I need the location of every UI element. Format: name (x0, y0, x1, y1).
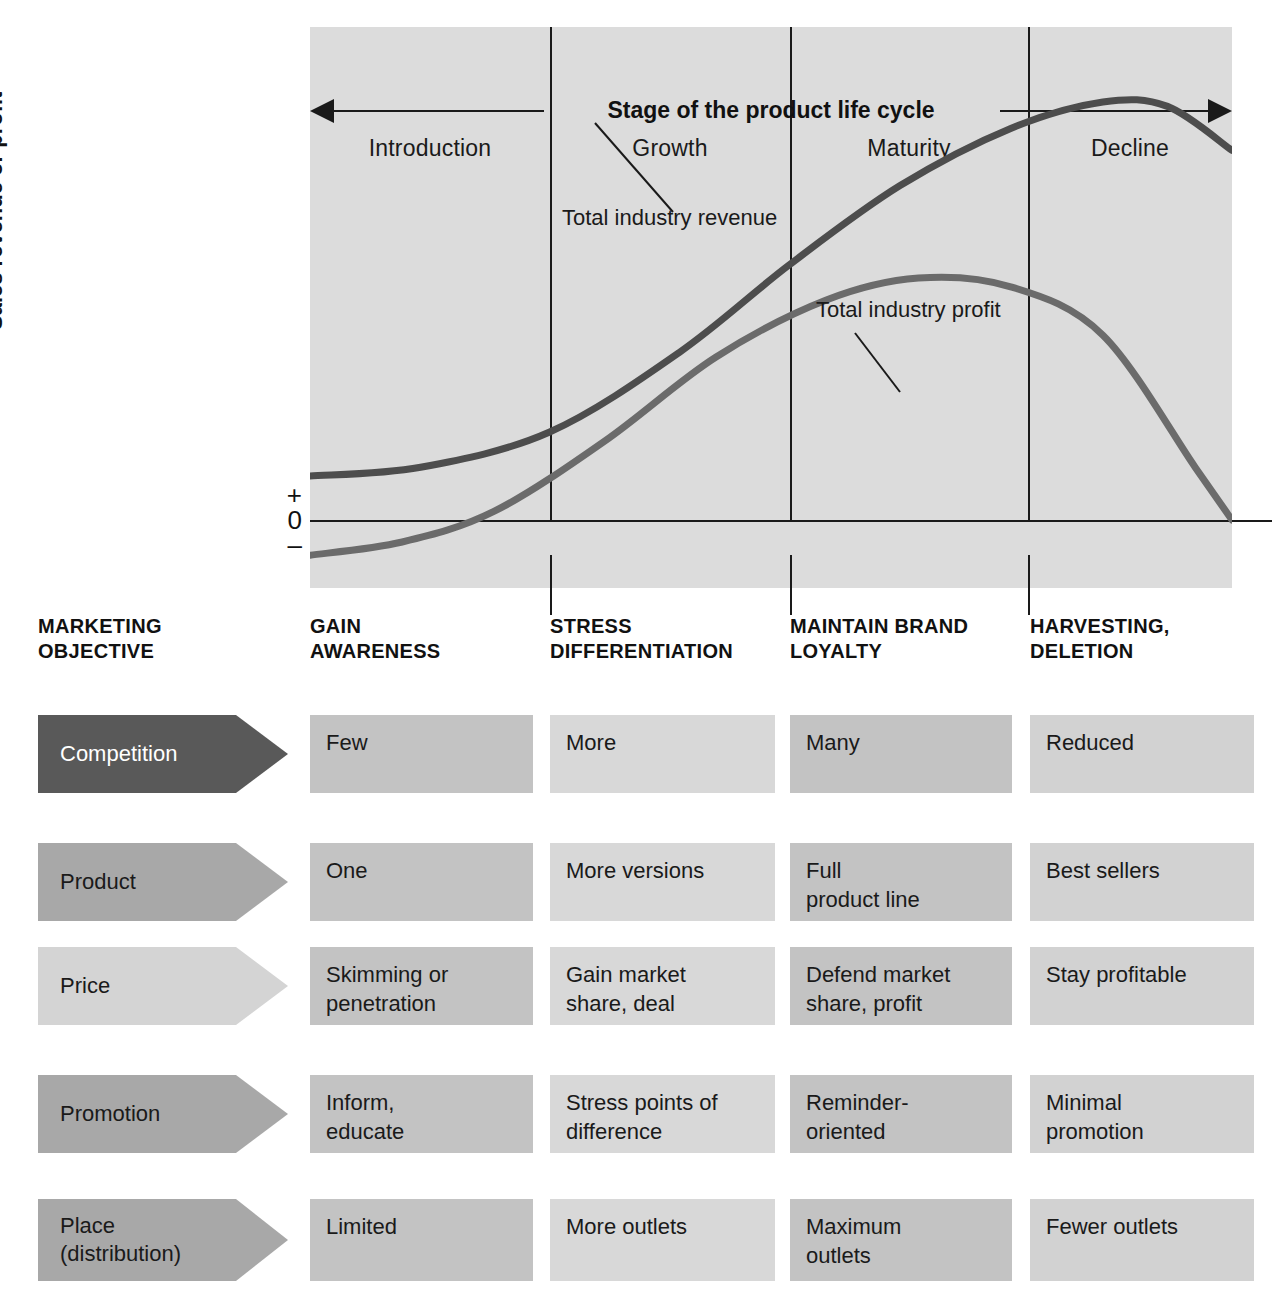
row-label-text: Price (60, 972, 110, 1000)
y-axis-label: Sales revenue or profit (0, 92, 8, 330)
objective-harvesting-deletion: HARVESTING, DELETION (1030, 614, 1260, 664)
profit-leader-line (855, 333, 900, 392)
objective-stress-differentiation: STRESS DIFFERENTIATION (550, 614, 788, 664)
matrix-cell: Few (310, 715, 533, 793)
row-label-competition: Competition (38, 715, 288, 793)
matrix-cell: Minimal promotion (1030, 1075, 1254, 1153)
matrix-cell: Many (790, 715, 1012, 793)
matrix-cell: Defend market share, profit (790, 947, 1012, 1025)
annotation-total-industry-revenue: Total industry revenue (562, 203, 777, 232)
objective-gain-awareness: GAIN AWARENESS (310, 614, 545, 664)
row-label-promotion: Promotion (38, 1075, 288, 1153)
matrix-cell: Reduced (1030, 715, 1254, 793)
curves-svg (310, 27, 1232, 588)
matrix-cell: Best sellers (1030, 843, 1254, 921)
row-label-text: Competition (60, 740, 177, 768)
matrix-cell: Limited (310, 1199, 533, 1281)
matrix-cell: Fewer outlets (1030, 1199, 1254, 1281)
total-industry-revenue-curve (310, 100, 1232, 476)
matrix-cell: Reminder- oriented (790, 1075, 1012, 1153)
life-cycle-chart: Stage of the product life cycle Introduc… (310, 27, 1232, 588)
row-label-place: Place (distribution) (38, 1199, 288, 1281)
matrix-cell: Gain market share, deal (550, 947, 775, 1025)
matrix-cell: One (310, 843, 533, 921)
matrix-cell: Stress points of difference (550, 1075, 775, 1153)
row-label-text: Promotion (60, 1100, 160, 1128)
row-label-text: Product (60, 868, 136, 896)
product-life-cycle-figure: Stage of the product life cycle Introduc… (0, 0, 1286, 1314)
matrix-cell: More (550, 715, 775, 793)
matrix-cell: Inform, educate (310, 1075, 533, 1153)
row-label-price: Price (38, 947, 288, 1025)
matrix-cell: More outlets (550, 1199, 775, 1281)
matrix-cell: Full product line (790, 843, 1012, 921)
revenue-leader-line (595, 123, 673, 212)
objective-maintain-brand-loyalty: MAINTAIN BRAND LOYALTY (790, 614, 1030, 664)
matrix-cell: More versions (550, 843, 775, 921)
matrix-cell: Stay profitable (1030, 947, 1254, 1025)
row-label-text: Place (distribution) (60, 1212, 181, 1268)
marketing-objective-header: MARKETING OBJECTIVE (38, 614, 288, 664)
total-industry-profit-curve (310, 277, 1232, 555)
matrix-cell: Skimming or penetration (310, 947, 533, 1025)
annotation-total-industry-profit: Total industry profit (816, 295, 1001, 324)
matrix-cell: Maximum outlets (790, 1199, 1012, 1281)
axis-minus-label: – (272, 530, 302, 561)
row-label-product: Product (38, 843, 288, 921)
